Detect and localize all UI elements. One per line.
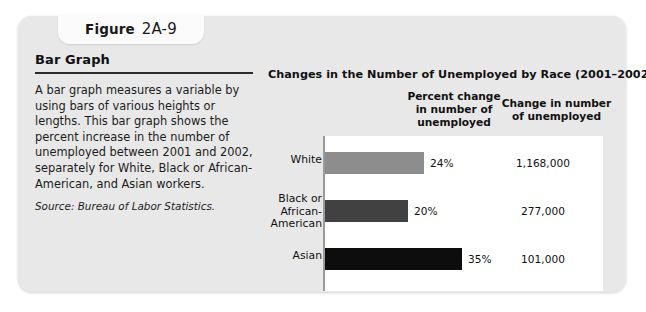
chart-region: Changes in the Number of Unemployed by R… [268,52,613,81]
figure-card: Figure 2A-9 Bar Graph A bar graph measur… [18,16,626,292]
explanation-panel: Bar Graph A bar graph measures a variabl… [35,52,263,223]
bar-asian [325,248,462,270]
figure-number: 2A-9 [142,20,177,38]
column-header-change-in-number: Change in number of unemployed [500,97,613,123]
column-header-percent-change: Percent change in number of unemployed [406,90,502,129]
panel-title: Bar Graph [35,52,263,67]
value-label-black-or-african-american-change: 277,000 [493,205,593,217]
figure-number-tab: Figure 2A-9 [58,14,204,44]
value-label-asian-percent: 35% [468,253,492,265]
chart-title: Changes in the Number of Unemployed by R… [268,68,613,81]
panel-source: Source: Bureau of Labor Statistics. [35,200,263,212]
heading-divider [35,72,253,74]
plot-area: 24% 20% 35% 1,168,000 277,000 101,000 [323,136,603,291]
category-label-white: White [236,154,322,167]
value-label-asian-change: 101,000 [493,253,593,265]
category-label-asian: Asian [236,250,322,263]
value-label-white-change: 1,168,000 [493,157,593,169]
bar-white [325,152,424,174]
chart-column-headers: Percent change in number of unemployed C… [268,90,613,136]
value-label-white-percent: 24% [430,157,454,169]
figure-label: Figure [85,21,135,37]
panel-description: A bar graph measures a variable by using… [35,83,263,192]
value-label-black-or-african-american-percent: 20% [414,205,438,217]
bar-black-or-african-american [325,200,408,222]
category-label-black-or-african-american: Black or African- American [236,193,322,231]
